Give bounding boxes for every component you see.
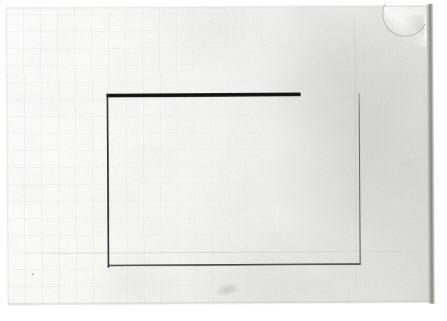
ink-fleck xyxy=(32,273,34,275)
paper-fiber-texture xyxy=(6,6,432,305)
screenshot-canvas xyxy=(0,0,447,321)
paper-sheet xyxy=(6,6,432,305)
curled-corner xyxy=(384,7,426,47)
paper-edge-right xyxy=(426,4,435,304)
